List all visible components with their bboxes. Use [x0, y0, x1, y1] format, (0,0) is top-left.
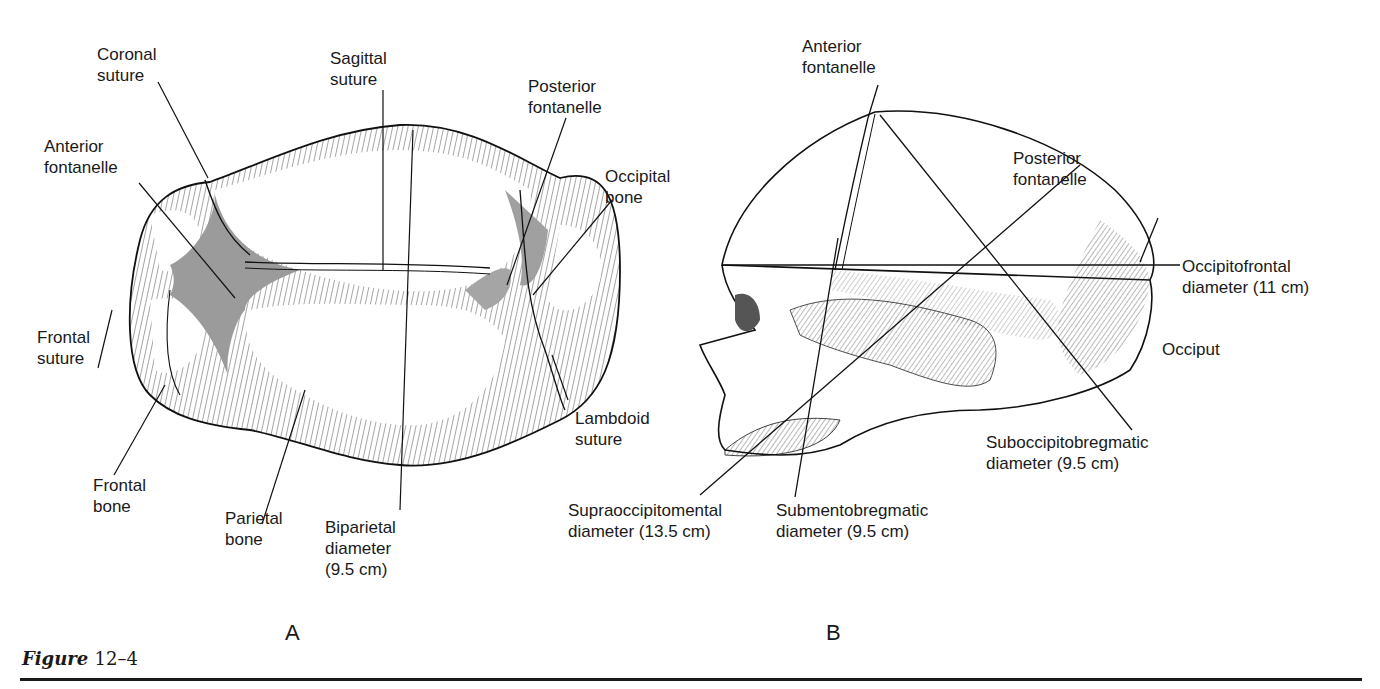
- skull-top-view: [120, 110, 640, 480]
- panel-letter-b: B: [826, 620, 841, 646]
- label-sagittal-suture: Sagittal suture: [330, 48, 387, 90]
- caption-prefix: Figure: [22, 648, 88, 669]
- label-occiput: Occiput: [1162, 339, 1220, 360]
- label-anterior-fontanelle-b: Anterior fontanelle: [802, 36, 876, 78]
- label-posterior-fontanelle-b: Posterior fontanelle: [1013, 148, 1087, 190]
- panel-letter-a: A: [285, 620, 300, 646]
- caption-rule-divider: [20, 678, 1362, 681]
- label-biparietal-diameter: Biparietal diameter (9.5 cm): [325, 517, 396, 580]
- label-anterior-fontanelle-a: Anterior fontanelle: [44, 136, 118, 178]
- label-occipitofrontal-diameter: Occipitofrontal diameter (11 cm): [1182, 256, 1309, 298]
- label-submentobregmatic-diameter: Submentobregmatic diameter (9.5 cm): [776, 500, 928, 542]
- label-posterior-fontanelle-a: Posterior fontanelle: [528, 76, 602, 118]
- label-lambdoid-suture: Lambdoid suture: [575, 408, 650, 450]
- label-frontal-suture: Frontal suture: [37, 327, 90, 369]
- label-suboccipitobregmatic-diameter: Suboccipitobregmatic diameter (9.5 cm): [986, 432, 1149, 474]
- figure-caption: Figure 12–4: [22, 648, 138, 669]
- label-frontal-bone: Frontal bone: [93, 475, 146, 517]
- label-supraoccipitomental-diameter: Supraoccipitomental diameter (13.5 cm): [568, 500, 722, 542]
- label-parietal-bone: Parietal bone: [225, 508, 283, 550]
- label-coronal-suture: Coronal suture: [97, 44, 157, 86]
- caption-number: 12–4: [95, 648, 138, 669]
- label-occipital-bone: Occipital bone: [605, 166, 670, 208]
